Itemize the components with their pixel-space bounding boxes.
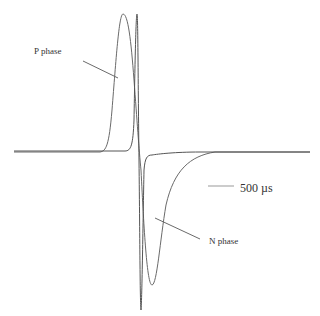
fast-spike-trace bbox=[14, 14, 310, 310]
scale-bar-label: 500 µs bbox=[240, 181, 273, 196]
p-phase-label: P phase bbox=[34, 46, 61, 56]
p-phase-pointer bbox=[83, 61, 118, 78]
chart-figure: P phase N phase 500 µs bbox=[0, 0, 320, 316]
n-phase-label: N phase bbox=[209, 236, 238, 246]
